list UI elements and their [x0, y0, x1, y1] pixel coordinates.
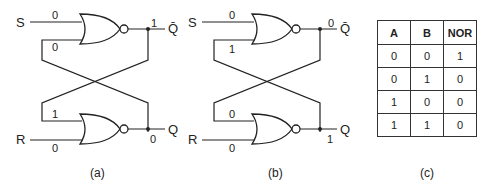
cell: 0: [411, 91, 444, 114]
bottom-output-value-b: 1: [327, 133, 333, 145]
table-row: 0 0 1: [378, 45, 477, 68]
circuit-a: [30, 14, 165, 144]
cell: 0: [444, 91, 477, 114]
cell: 1: [378, 114, 411, 137]
table-row: 0 1 0: [378, 68, 477, 91]
top-output-value-b: 0: [328, 17, 334, 29]
s-input-label-b: S: [188, 15, 197, 30]
truth-table-header-row: A B NOR: [378, 21, 477, 45]
bottom-feedback-value-b: 0: [229, 108, 235, 120]
s-value-a: 0: [52, 9, 58, 21]
circuit-b: [202, 14, 337, 144]
cell: 1: [444, 45, 477, 68]
cell: 1: [411, 68, 444, 91]
q-output-label-b: Q: [340, 122, 350, 137]
nor-gate-bottom-a: [80, 114, 128, 144]
r-input-label-b: R: [188, 132, 197, 147]
r-input-label-a: R: [16, 132, 25, 147]
cell: 0: [444, 114, 477, 137]
bottom-feedback-value-a: 1: [52, 108, 58, 120]
s-input-label-a: S: [16, 15, 25, 30]
nor-gate-bottom-b: [252, 114, 300, 144]
table-row: 1 1 0: [378, 114, 477, 137]
cell: 0: [378, 45, 411, 68]
table-row: 1 0 0: [378, 91, 477, 114]
s-value-b: 0: [229, 9, 235, 21]
caption-a: (a): [90, 166, 105, 180]
caption-b: (b): [268, 166, 283, 180]
cell: 1: [411, 114, 444, 137]
nor-gate-top-a: [80, 14, 128, 44]
header-b: B: [411, 21, 444, 45]
r-value-a: 0: [52, 142, 58, 154]
q-output-label-a: Q: [168, 122, 178, 137]
r-value-b: 0: [229, 142, 235, 154]
nor-truth-table: A B NOR 0 0 1 0 1 0 1 0 0 1 1 0: [377, 20, 477, 137]
bottom-output-value-a: 0: [150, 133, 156, 145]
top-output-value-a: 1: [151, 17, 157, 29]
cell: 1: [378, 91, 411, 114]
cell: 0: [411, 45, 444, 68]
nor-gate-top-b: [252, 14, 300, 44]
qbar-output-label-b: Q̄: [340, 21, 350, 36]
cell: 0: [444, 68, 477, 91]
header-a: A: [378, 21, 411, 45]
top-feedback-value-b: 1: [229, 43, 235, 55]
caption-c: (c): [420, 166, 434, 180]
top-feedback-value-a: 0: [52, 41, 58, 53]
qbar-output-label-a: Q̄: [168, 21, 178, 36]
header-nor: NOR: [444, 21, 477, 45]
cell: 0: [378, 68, 411, 91]
